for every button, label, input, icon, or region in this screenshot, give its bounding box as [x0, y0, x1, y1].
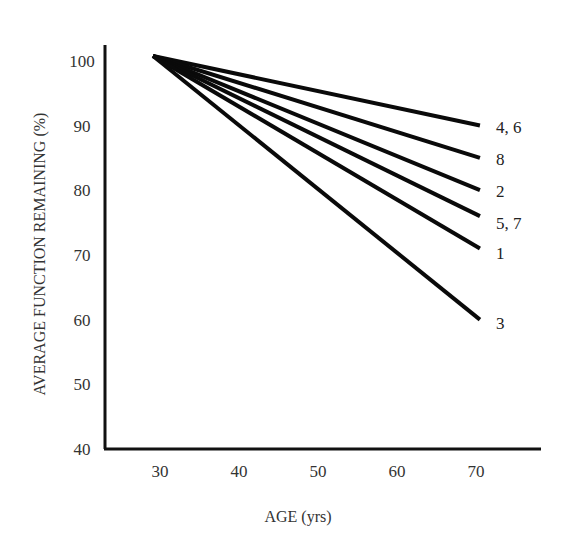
series-label: 3 — [496, 314, 505, 333]
y-tick-labels: 405060708090100 — [69, 52, 95, 459]
series-line — [153, 56, 480, 320]
x-tick-labels: 3040506070 — [152, 462, 485, 481]
y-tick-label: 80 — [74, 181, 91, 200]
series-line — [153, 56, 480, 216]
y-tick-label: 100 — [69, 52, 95, 71]
x-tick-label: 40 — [231, 462, 248, 481]
y-tick-label: 50 — [74, 375, 91, 394]
series-line — [153, 56, 480, 190]
series-label: 1 — [496, 244, 505, 263]
series-label: 4, 6 — [496, 118, 522, 137]
x-tick-label: 30 — [152, 462, 169, 481]
series-line — [153, 56, 480, 248]
y-tick-label: 90 — [74, 117, 91, 136]
series-label: 5, 7 — [496, 214, 522, 233]
x-tick-label: 70 — [468, 462, 485, 481]
series-line — [153, 56, 480, 158]
line-chart: 405060708090100 3040506070 4, 6825, 713 … — [0, 0, 562, 553]
series-label: 2 — [496, 182, 505, 201]
x-axis-title: AGE (yrs) — [264, 508, 331, 526]
series-labels: 4, 6825, 713 — [496, 118, 522, 333]
x-tick-label: 60 — [389, 462, 406, 481]
x-tick-label: 50 — [310, 462, 327, 481]
series-lines — [153, 56, 480, 320]
y-tick-label: 70 — [74, 246, 91, 265]
y-tick-label: 60 — [74, 311, 91, 330]
y-tick-label: 40 — [74, 440, 91, 459]
y-axis-title: AVERAGE FUNCTION REMAINING (%) — [31, 113, 49, 396]
series-label: 8 — [496, 150, 505, 169]
series-line — [153, 56, 480, 126]
